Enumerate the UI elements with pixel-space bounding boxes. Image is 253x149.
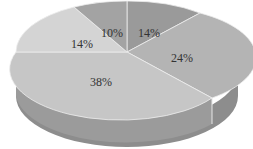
label-slice-24: 24% <box>171 51 193 65</box>
label-slice-10: 10% <box>101 26 123 40</box>
label-slice-14-a: 14% <box>138 26 160 40</box>
label-slice-38: 38% <box>90 75 112 89</box>
pie-chart: 14% 24% 38% 14% 10% <box>0 0 253 149</box>
label-slice-14-b: 14% <box>71 37 93 51</box>
